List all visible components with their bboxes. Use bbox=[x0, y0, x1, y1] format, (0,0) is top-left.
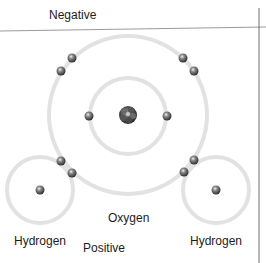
electron-icon bbox=[68, 169, 77, 178]
hydrogen-left-electron-icon bbox=[36, 186, 45, 195]
negative-label: Negative bbox=[49, 9, 96, 21]
electron-icon bbox=[180, 168, 189, 177]
top-rule-line bbox=[0, 27, 266, 31]
positive-label: Positive bbox=[83, 242, 125, 254]
electron-icon bbox=[190, 156, 199, 165]
electron-icon bbox=[190, 67, 199, 76]
electron-icon bbox=[179, 54, 188, 63]
electron-icon bbox=[85, 112, 94, 121]
hydrogen-right-electron-icon bbox=[212, 186, 221, 195]
electron-icon bbox=[57, 67, 66, 76]
electron-icon bbox=[163, 112, 172, 121]
oxygen-label: Oxygen bbox=[108, 212, 149, 224]
hydrogen-right-label: Hydrogen bbox=[190, 235, 242, 247]
electron-icon bbox=[68, 54, 77, 63]
electron-icon bbox=[57, 157, 66, 166]
oxygen-nucleus-icon bbox=[119, 106, 137, 124]
hydrogen-left-label: Hydrogen bbox=[14, 235, 66, 247]
